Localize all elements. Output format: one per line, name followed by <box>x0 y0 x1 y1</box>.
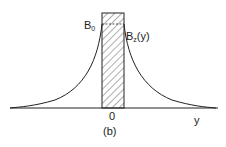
curve-label-arg: (y) <box>137 30 150 42</box>
hatched-slab <box>102 13 124 108</box>
peak-label-sub: 0 <box>91 25 95 32</box>
origin-label: 0 <box>109 111 115 122</box>
peak-label: B0 <box>84 20 95 32</box>
figure-caption: (b) <box>103 126 116 137</box>
curve-label: Bz(y) <box>126 31 150 43</box>
left-decay-curve <box>10 24 102 108</box>
axis-label: y <box>194 115 200 126</box>
